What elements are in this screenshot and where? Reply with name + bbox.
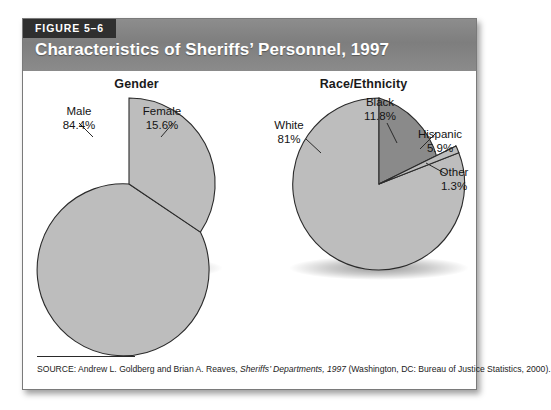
charts-area: Gender <box>23 71 476 343</box>
pie-label-male-value: 84.4% <box>53 119 105 133</box>
pie-label-male: Male 84.4% <box>53 105 105 132</box>
pie-label-black-value: 11.8% <box>353 110 407 124</box>
pie-label-hispanic-value: 5.9% <box>408 142 472 156</box>
pie-label-other-name: Other <box>440 166 469 178</box>
source-publication-title: Sheriffs’ Departments, 1997 <box>240 364 346 374</box>
chart-panel-gender: Gender <box>23 71 250 343</box>
pie-label-other: Other 1.3% <box>430 166 478 193</box>
pie-label-other-value: 1.3% <box>430 180 478 194</box>
figure-header-band: FIGURE 5–6 Characteristics of Sheriffs’ … <box>23 19 476 71</box>
pie-label-white: White 81% <box>261 119 317 146</box>
pie-label-white-value: 81% <box>261 133 317 147</box>
figure-title: Characteristics of Sheriffs’ Personnel, … <box>35 40 389 60</box>
figure-container: FIGURE 5–6 Characteristics of Sheriffs’ … <box>22 18 477 390</box>
source-note: SOURCE: Andrew L. Goldberg and Brian A. … <box>37 364 469 375</box>
source-divider-rule <box>37 356 135 357</box>
pie-label-female-value: 15.6% <box>131 119 193 133</box>
pie-label-white-name: White <box>274 119 303 131</box>
pie-label-hispanic-name: Hispanic <box>418 128 462 140</box>
pie-label-black-name: Black <box>366 96 394 108</box>
figure-number-badge: FIGURE 5–6 <box>23 19 116 38</box>
pie-label-hispanic: Hispanic 5.9% <box>408 128 472 155</box>
chart-panel-race-ethnicity: Race/Ethnicity <box>250 71 477 343</box>
source-suffix: (Washington, DC: Bureau of Justice Stati… <box>346 364 551 374</box>
pie-label-male-name: Male <box>67 105 92 117</box>
source-prefix: SOURCE: Andrew L. Goldberg and Brian A. … <box>37 364 240 374</box>
pie-label-female: Female 15.6% <box>131 105 193 132</box>
pie-label-black: Black 11.8% <box>353 96 407 123</box>
pie-label-female-name: Female <box>143 105 181 117</box>
